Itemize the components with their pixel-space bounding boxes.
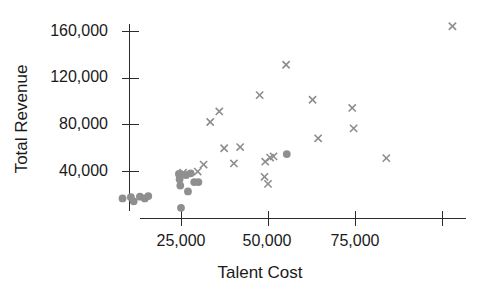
data-point-x	[349, 104, 356, 111]
data-point-x	[200, 161, 207, 168]
scatter-chart: · Total Revenue 160,000 120,000 80,000 4…	[0, 0, 477, 297]
data-point-x	[383, 155, 390, 162]
data-point-x	[207, 118, 214, 125]
data-point-x	[309, 96, 316, 103]
data-point-x	[264, 180, 271, 187]
data-point-dot	[177, 204, 185, 212]
data-point-dot	[184, 188, 192, 196]
data-point-x	[230, 160, 237, 167]
data-point-dot	[195, 178, 203, 186]
data-point-dot	[176, 182, 184, 190]
data-point-x	[216, 108, 223, 115]
data-point-x	[194, 168, 201, 175]
data-point-dot	[119, 195, 127, 203]
data-point-dot	[130, 197, 138, 205]
data-point-x	[449, 23, 456, 30]
data-point-x	[256, 92, 263, 99]
data-point-x	[282, 61, 289, 68]
data-point-x	[237, 143, 244, 150]
data-point-x	[221, 145, 228, 152]
series-x-markers	[179, 23, 456, 188]
data-point-x	[350, 125, 357, 132]
data-point-x	[315, 135, 322, 142]
data-point-x	[261, 173, 268, 180]
data-point-dot	[187, 169, 195, 177]
plot-area	[0, 0, 477, 297]
data-point-dot	[144, 192, 152, 200]
data-point-dot	[283, 150, 291, 158]
y-tick-marks	[122, 32, 139, 172]
